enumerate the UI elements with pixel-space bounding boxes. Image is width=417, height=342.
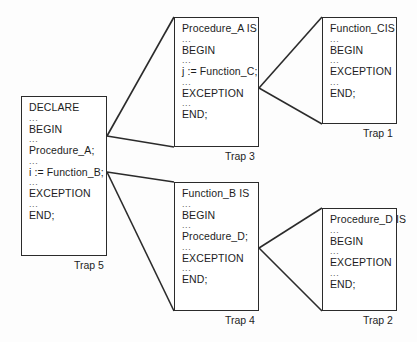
code-line: ... (330, 78, 396, 88)
connector-trap4-trap2-upper (259, 208, 322, 248)
code-block-trap2: Procedure_D IS ... BEGIN ... EXCEPTION .… (322, 208, 397, 311)
code-line: ... (29, 114, 106, 124)
code-block-trap3: Procedure_A IS ... BEGIN ... j := Functi… (174, 17, 259, 147)
trap-label-trap4: Trap 4 (225, 314, 255, 326)
trap-label-trap3: Trap 3 (225, 150, 255, 162)
code-line: Function_CIS (330, 23, 396, 35)
code-line: ... (29, 157, 106, 167)
code-line: ... (330, 35, 396, 45)
code-line: BEGIN (330, 45, 396, 57)
code-line: Procedure_D IS (330, 214, 396, 226)
code-line: END; (29, 210, 106, 222)
connector-trap5-trap4-lower (107, 172, 174, 311)
connector-trap5-trap3-upper (107, 17, 174, 136)
trap-label-trap1: Trap 1 (363, 127, 393, 139)
code-line: i := Function_B; (29, 167, 106, 179)
connector-trap3-trap1-upper (259, 17, 322, 88)
code-line: ... (330, 226, 396, 236)
code-line: DECLARE (29, 102, 106, 114)
code-line: ... (182, 35, 258, 45)
code-line: ... (330, 269, 396, 279)
code-line: END; (330, 279, 396, 291)
code-line: EXCEPTION (182, 253, 258, 265)
code-block-trap4: Function_B IS ... BEGIN ... Procedure_D;… (174, 182, 259, 311)
trap-label-trap5: Trap 5 (74, 259, 104, 271)
connector-trap4-trap2-lower (259, 248, 322, 311)
code-line: ... (182, 243, 258, 253)
connector-trap5-trap4-upper (107, 172, 174, 182)
connector-trap3-trap1-lower (259, 88, 322, 124)
code-line: Procedure_D; (182, 231, 258, 243)
code-line: Procedure_A; (29, 145, 106, 157)
code-line: EXCEPTION (29, 188, 106, 200)
diagram-canvas: DECLARE ... BEGIN ... Procedure_A; ... i… (0, 0, 417, 342)
code-line: Procedure_A IS (182, 23, 258, 35)
code-line: ... (182, 78, 258, 88)
code-line: Function_B IS (182, 188, 258, 200)
code-line: ... (182, 200, 258, 210)
code-block-trap5: DECLARE ... BEGIN ... Procedure_A; ... i… (21, 96, 107, 256)
code-line: BEGIN (182, 45, 258, 57)
code-line: BEGIN (29, 124, 106, 136)
code-line: END; (182, 274, 258, 286)
code-block-trap1: Function_CIS ... BEGIN ... EXCEPTION ...… (322, 17, 397, 124)
code-line: END; (182, 109, 258, 121)
code-line: ... (29, 200, 106, 210)
code-line: END; (330, 88, 396, 100)
code-line: BEGIN (330, 236, 396, 248)
code-line: j := Function_C; (182, 66, 258, 78)
code-line: EXCEPTION (330, 257, 396, 269)
code-line: EXCEPTION (182, 88, 258, 100)
code-line: EXCEPTION (330, 66, 396, 78)
trap-label-trap2: Trap 2 (363, 314, 393, 326)
connector-trap5-trap3-lower (107, 136, 174, 147)
code-line: BEGIN (182, 210, 258, 222)
